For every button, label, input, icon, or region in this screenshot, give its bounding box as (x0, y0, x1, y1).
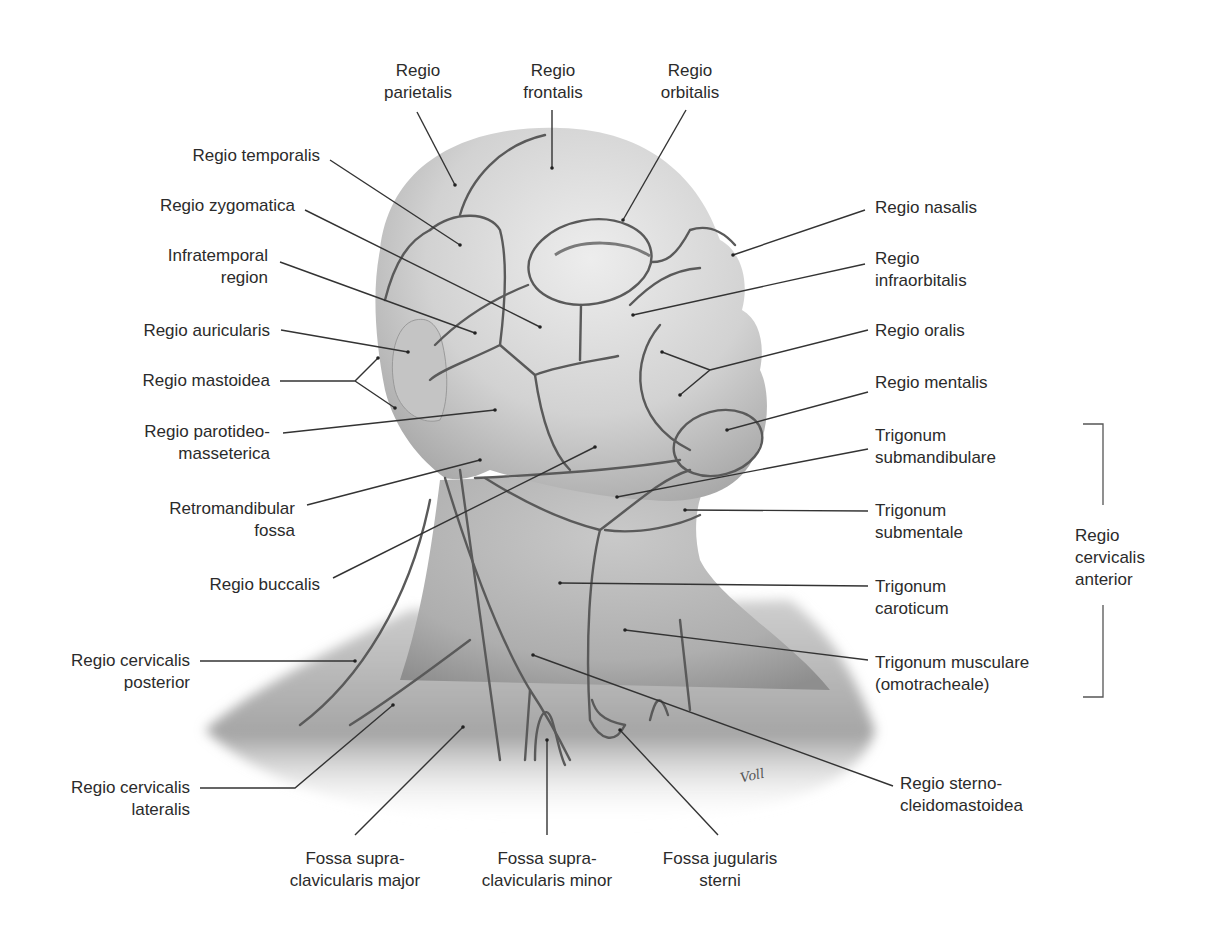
label-regio-infraorbitalis: Regio infraorbitalis (875, 248, 1075, 292)
label-regio-mentalis: Regio mentalis (875, 372, 1075, 394)
label-regio-parietalis: Regio parietalis (368, 60, 468, 104)
label-regio-parotideo-masseterica: Regio parotideo- masseterica (70, 421, 270, 465)
label-regio-cervicalis-anterior: Regio cervicalis anterior (1075, 525, 1195, 591)
label-regio-sternocleidomastoidea: Regio sterno- cleidomastoidea (900, 773, 1100, 817)
label-regio-temporalis: Regio temporalis (120, 145, 320, 167)
label-regio-mastoidea: Regio mastoidea (80, 370, 270, 392)
label-fossa-supraclavicularis-minor: Fossa supra- clavicularis minor (447, 848, 647, 892)
label-regio-orbitalis: Regio orbitalis (640, 60, 740, 104)
label-regio-nasalis: Regio nasalis (875, 197, 1075, 219)
label-fossa-supraclavicularis-major: Fossa supra- clavicularis major (255, 848, 455, 892)
label-regio-auricularis: Regio auricularis (80, 320, 270, 342)
label-regio-cervicalis-lateralis: Regio cervicalis lateralis (0, 777, 190, 821)
label-regio-zygomatica: Regio zygomatica (95, 195, 295, 217)
label-regio-oralis: Regio oralis (875, 320, 1075, 342)
label-trigonum-submandibulare: Trigonum submandibulare (875, 425, 1075, 469)
label-trigonum-musculare: Trigonum musculare (omotracheale) (875, 652, 1075, 696)
label-retromandibular-fossa: Retromandibular fossa (95, 498, 295, 542)
label-infratemporal-region: Infratemporal region (100, 245, 268, 289)
label-regio-frontalis: Regio frontalis (503, 60, 603, 104)
label-fossa-jugularis-sterni: Fossa jugularis sterni (640, 848, 800, 892)
label-regio-cervicalis-posterior: Regio cervicalis posterior (0, 650, 190, 694)
label-trigonum-submentale: Trigonum submentale (875, 500, 1075, 544)
label-trigonum-caroticum: Trigonum caroticum (875, 576, 1075, 620)
head-shape (375, 128, 767, 501)
label-regio-buccalis: Regio buccalis (120, 574, 320, 596)
